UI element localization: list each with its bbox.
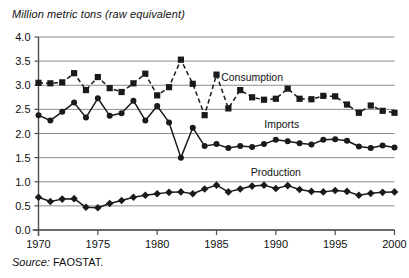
marker-production-1983	[189, 190, 197, 198]
marker-consumption-1971	[47, 80, 53, 86]
source-value: FAOSTAT.	[53, 256, 103, 268]
marker-consumption-1980	[154, 92, 160, 98]
marker-production-1971	[47, 198, 55, 206]
marker-imports-1999	[380, 143, 386, 149]
y-tick-label-6: 3.0	[15, 79, 30, 91]
marker-consumption-1972	[59, 79, 65, 85]
marker-consumption-1973	[71, 70, 77, 76]
marker-production-1988	[248, 182, 256, 190]
marker-production-1982	[177, 188, 185, 196]
marker-production-1985	[213, 181, 221, 189]
marker-imports-1994	[320, 137, 326, 143]
marker-production-1987	[236, 185, 244, 193]
marker-imports-1985	[214, 141, 220, 147]
marker-production-1996	[343, 188, 351, 196]
y-tick-label-7: 3.5	[15, 55, 30, 67]
marker-consumption-1983	[190, 81, 196, 87]
marker-imports-1992	[297, 140, 303, 146]
marker-production-1981	[165, 189, 173, 197]
marker-production-1977	[118, 197, 126, 205]
x-tick-label-0: 1970	[26, 238, 50, 250]
marker-consumption-1994	[320, 93, 326, 99]
marker-production-1998	[367, 190, 375, 198]
marker-consumption-1978	[130, 80, 136, 86]
marker-production-1992	[296, 186, 304, 194]
chart-container: Million metric tons (raw equivalent) 0.0…	[0, 0, 409, 278]
marker-consumption-1989	[261, 97, 267, 103]
marker-consumption-1974	[83, 87, 89, 93]
marker-production-1975	[94, 204, 102, 212]
marker-imports-1987	[237, 143, 243, 149]
marker-production-1972	[58, 195, 66, 203]
marker-imports-1988	[249, 144, 255, 150]
marker-consumption-1997	[356, 110, 362, 116]
source-note: Source: FAOSTAT.	[12, 256, 103, 268]
y-tick-label-1: 0.5	[15, 200, 30, 212]
marker-imports-1976	[107, 113, 113, 119]
marker-production-1993	[308, 188, 316, 196]
x-tick-label-4: 1990	[264, 238, 288, 250]
marker-production-1989	[260, 181, 268, 189]
marker-production-1979	[142, 191, 150, 199]
x-tick-label-5: 1995	[323, 238, 347, 250]
marker-consumption-1975	[95, 74, 101, 80]
marker-production-2000	[391, 188, 399, 196]
marker-production-1991	[284, 182, 292, 190]
marker-imports-1974	[83, 115, 89, 121]
marker-production-1984	[201, 185, 209, 193]
y-tick-label-5: 2.5	[15, 103, 30, 115]
marker-production-1970	[35, 193, 43, 201]
marker-imports-1991	[285, 138, 291, 144]
marker-production-1995	[331, 187, 339, 195]
marker-consumption-1987	[237, 87, 243, 93]
y-tick-label-8: 4.0	[15, 31, 30, 43]
marker-consumption-1995	[332, 93, 338, 99]
marker-imports-1995	[332, 136, 338, 142]
marker-imports-1977	[119, 110, 125, 116]
marker-imports-1979	[142, 117, 148, 123]
marker-consumption-1970	[35, 80, 41, 86]
marker-production-1978	[130, 193, 138, 201]
marker-consumption-1991	[285, 86, 291, 92]
marker-imports-1996	[344, 138, 350, 144]
marker-imports-1972	[59, 109, 65, 115]
marker-consumption-1988	[249, 94, 255, 100]
marker-consumption-2000	[391, 110, 397, 116]
marker-consumption-1996	[344, 101, 350, 107]
marker-production-1999	[379, 189, 387, 197]
x-tick-label-1: 1975	[86, 238, 110, 250]
marker-imports-2000	[392, 144, 398, 150]
x-tick-label-6: 2000	[382, 238, 406, 250]
marker-imports-1971	[47, 117, 53, 123]
marker-imports-1978	[130, 98, 136, 104]
marker-consumption-1992	[296, 96, 302, 102]
series-annotation-production: Production	[251, 166, 301, 178]
y-tick-label-4: 2.0	[15, 128, 30, 140]
marker-imports-1993	[308, 142, 314, 148]
marker-production-1994	[320, 188, 328, 196]
marker-imports-1984	[202, 143, 208, 149]
marker-imports-1990	[273, 137, 279, 143]
marker-consumption-1976	[107, 85, 113, 91]
chart-plot-area: 0.00.51.01.52.02.53.03.54.0 197019751980…	[0, 0, 409, 278]
series-markers-group	[35, 57, 399, 212]
marker-production-1986	[225, 188, 233, 196]
marker-imports-1989	[261, 141, 267, 147]
marker-production-1997	[355, 191, 363, 199]
marker-imports-1986	[225, 145, 231, 151]
marker-imports-1973	[71, 100, 77, 106]
marker-consumption-1993	[308, 96, 314, 102]
marker-consumption-1998	[368, 102, 374, 108]
gridlines-group	[39, 37, 395, 230]
marker-production-1980	[153, 190, 161, 198]
marker-consumption-1984	[202, 112, 208, 118]
source-label: Source:	[12, 256, 50, 268]
y-tick-labels-group: 0.00.51.01.52.02.53.03.54.0	[15, 31, 30, 236]
marker-imports-1981	[166, 119, 172, 125]
x-tick-marks-group	[39, 230, 395, 235]
marker-imports-1980	[154, 103, 160, 109]
marker-production-1990	[272, 185, 280, 193]
marker-consumption-1999	[380, 108, 386, 114]
x-tick-labels-group: 1970197519801985199019952000	[26, 238, 406, 250]
y-tick-label-3: 1.5	[15, 152, 30, 164]
